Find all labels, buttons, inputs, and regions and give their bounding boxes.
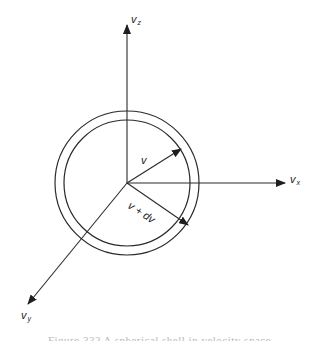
v-vector-label: v	[141, 155, 147, 166]
vy-axis	[28, 183, 127, 304]
vx-label: vx	[290, 174, 300, 186]
velocity-space-diagram	[0, 0, 319, 341]
figure-caption: Figure 332 A spherical shell in velocity…	[0, 333, 319, 341]
v-vector	[127, 149, 181, 183]
vz-label: vz	[131, 14, 141, 26]
vy-label: vy	[21, 310, 31, 322]
